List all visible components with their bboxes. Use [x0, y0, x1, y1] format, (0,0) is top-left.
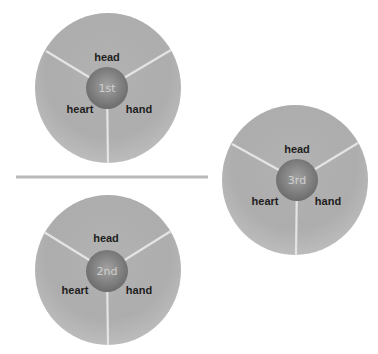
wheel-second: 2ndheadhearthand [35, 195, 181, 345]
hub-label: 2nd [97, 265, 118, 278]
hub-label: 1st [98, 82, 116, 95]
segment-label-heart: heart [252, 195, 279, 207]
wheel-first: 1stheadhearthand [35, 13, 181, 163]
segment-label-head: head [284, 143, 310, 155]
segment-label-hand: hand [315, 195, 341, 207]
diagram-canvas: 1stheadhearthand2ndheadhearthand3rdheadh… [0, 0, 378, 354]
segment-label-head: head [94, 51, 120, 63]
segment-label-hand: hand [126, 284, 152, 296]
wheel-third: 3rdheadhearthand [222, 105, 368, 255]
wheels-group: 1stheadhearthand2ndheadhearthand3rdheadh… [35, 13, 368, 345]
segment-label-heart: heart [62, 284, 89, 296]
hub-label: 3rd [288, 174, 306, 187]
segment-label-hand: hand [126, 103, 152, 115]
segment-label-head: head [93, 232, 119, 244]
segment-label-heart: heart [67, 103, 94, 115]
